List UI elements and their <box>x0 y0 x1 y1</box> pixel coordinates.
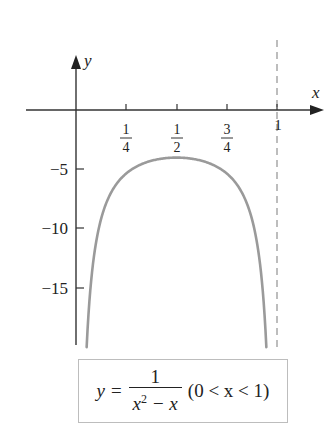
y-axis-arrow-icon <box>71 55 81 69</box>
y-tick-labels: −5 −10 −15 <box>41 160 68 298</box>
x-tick-1-4-num: 1 <box>123 122 130 137</box>
x-tick-1-4-den: 4 <box>123 140 130 155</box>
x-tick-3-4-den: 4 <box>224 140 231 155</box>
x-axis-arrow-icon <box>310 105 324 115</box>
function-curve <box>87 158 267 347</box>
formula-box: y = 1 x2 − x (0 < x < 1) <box>78 359 288 423</box>
formula-domain: (0 < x < 1) <box>188 380 270 402</box>
formula-fraction: 1 x2 − x <box>129 367 182 415</box>
y-tick-minus-5: −5 <box>50 160 68 179</box>
x-tick-1-2-den: 2 <box>174 140 181 155</box>
x-tick-3-4-num: 3 <box>224 122 231 137</box>
x-tick-labels: 1 4 1 2 3 4 1 <box>120 117 282 155</box>
y-tick-minus-15: −15 <box>41 279 68 298</box>
x-tick-1-2-num: 1 <box>174 122 181 137</box>
formula-denominator: x2 − x <box>129 387 182 415</box>
x-tick-1: 1 <box>274 117 282 133</box>
y-axis-label: y <box>82 51 92 70</box>
y-ticks <box>76 169 84 288</box>
y-tick-minus-10: −10 <box>41 219 68 238</box>
x-ticks <box>126 104 277 110</box>
formula-lhs: y = <box>97 380 123 402</box>
formula-numerator: 1 <box>146 367 164 387</box>
x-axis-label: x <box>311 83 320 102</box>
